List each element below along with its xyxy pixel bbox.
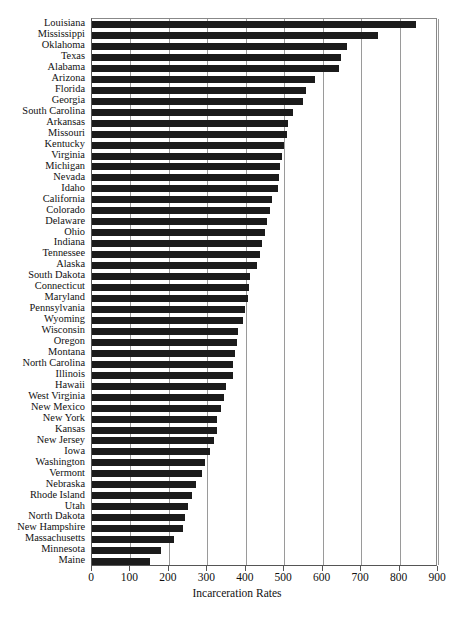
y-label-alabama: Alabama: [0, 61, 85, 72]
bar-texas: [92, 54, 341, 61]
bar-wyoming: [92, 317, 243, 324]
bar-south-carolina: [92, 109, 293, 116]
bar-west-virginia: [92, 394, 224, 401]
y-label-west-virginia: West Virginia: [0, 390, 85, 401]
bar-indiana: [92, 240, 262, 247]
bar-nevada: [92, 174, 279, 181]
bar-series: [92, 19, 436, 565]
y-label-indiana: Indiana: [0, 236, 85, 247]
x-ticklabel-600: 600: [313, 570, 330, 584]
bar-tennessee: [92, 251, 260, 258]
bar-iowa: [92, 448, 210, 455]
x-ticklabel-700: 700: [351, 570, 368, 584]
bar-kansas: [92, 427, 217, 434]
bar-oregon: [92, 339, 237, 346]
y-label-texas: Texas: [0, 50, 85, 61]
bar-florida: [92, 87, 306, 94]
bar-louisiana: [92, 21, 416, 28]
x-ticklabel-100: 100: [121, 570, 138, 584]
y-label-north-dakota: North Dakota: [0, 510, 85, 521]
y-label-south-carolina: South Carolina: [0, 105, 85, 116]
plot-area: [91, 18, 437, 566]
bar-michigan: [92, 163, 280, 170]
bar-kentucky: [92, 142, 284, 149]
bar-washington: [92, 459, 205, 466]
bar-wisconsin: [92, 328, 238, 335]
bar-north-dakota: [92, 514, 185, 521]
bar-vermont: [92, 470, 202, 477]
bar-massachusetts: [92, 536, 174, 543]
y-label-north-carolina: North Carolina: [0, 357, 85, 368]
y-label-vermont: Vermont: [0, 467, 85, 478]
y-label-utah: Utah: [0, 500, 85, 511]
y-label-arkansas: Arkansas: [0, 116, 85, 127]
y-label-maine: Maine: [0, 554, 85, 565]
bar-alaska: [92, 262, 257, 269]
x-ticklabel-0: 0: [88, 570, 94, 584]
y-label-illinois: Illinois: [0, 368, 85, 379]
bar-illinois: [92, 372, 233, 379]
x-axis-tick-labels: 0100200300400500600700800900: [0, 570, 458, 586]
y-label-south-dakota: South Dakota: [0, 269, 85, 280]
y-label-wisconsin: Wisconsin: [0, 324, 85, 335]
bar-south-dakota: [92, 273, 250, 280]
y-label-new-york: New York: [0, 412, 85, 423]
bar-new-jersey: [92, 437, 214, 444]
y-label-connecticut: Connecticut: [0, 280, 85, 291]
bar-rhode-island: [92, 492, 192, 499]
x-axis-title: Incarceration Rates: [0, 587, 458, 599]
bar-idaho: [92, 185, 278, 192]
y-label-nevada: Nevada: [0, 171, 85, 182]
y-label-nebraska: Nebraska: [0, 478, 85, 489]
bar-hawaii: [92, 383, 226, 390]
x-ticklabel-500: 500: [275, 570, 292, 584]
bar-mississippi: [92, 32, 378, 39]
y-label-virginia: Virginia: [0, 149, 85, 160]
bar-nebraska: [92, 481, 196, 488]
y-label-delaware: Delaware: [0, 215, 85, 226]
x-axis-title-text: Incarceration Rates: [192, 587, 281, 599]
incarceration-rates-bar-chart: LouisianaMississippiOklahomaTexasAlabama…: [0, 0, 458, 618]
y-label-ohio: Ohio: [0, 226, 85, 237]
y-label-massachusetts: Massachusetts: [0, 532, 85, 543]
y-label-iowa: Iowa: [0, 445, 85, 456]
y-label-missouri: Missouri: [0, 127, 85, 138]
bar-new-mexico: [92, 405, 221, 412]
y-label-pennsylvania: Pennsylvania: [0, 302, 85, 313]
x-ticklabel-800: 800: [390, 570, 407, 584]
bar-pennsylvania: [92, 306, 245, 313]
bar-missouri: [92, 131, 287, 138]
x-ticklabel-400: 400: [236, 570, 253, 584]
gridline-900: [438, 19, 439, 565]
bar-new-hampshire: [92, 525, 183, 532]
y-label-new-jersey: New Jersey: [0, 434, 85, 445]
bar-connecticut: [92, 284, 249, 291]
y-label-alaska: Alaska: [0, 258, 85, 269]
bar-new-york: [92, 416, 217, 423]
y-label-washington: Washington: [0, 456, 85, 467]
y-label-louisiana: Louisiana: [0, 17, 85, 28]
y-label-colorado: Colorado: [0, 204, 85, 215]
bar-georgia: [92, 98, 303, 105]
bar-virginia: [92, 153, 282, 160]
bar-oklahoma: [92, 43, 347, 50]
x-ticklabel-200: 200: [159, 570, 176, 584]
y-label-oklahoma: Oklahoma: [0, 39, 85, 50]
bar-utah: [92, 503, 188, 510]
bar-ohio: [92, 229, 265, 236]
y-label-georgia: Georgia: [0, 94, 85, 105]
bar-arkansas: [92, 120, 288, 127]
y-label-arizona: Arizona: [0, 72, 85, 83]
bar-maryland: [92, 295, 248, 302]
y-label-maryland: Maryland: [0, 291, 85, 302]
bar-california: [92, 196, 272, 203]
y-label-hawaii: Hawaii: [0, 379, 85, 390]
bar-alabama: [92, 65, 339, 72]
bar-montana: [92, 350, 235, 357]
y-label-idaho: Idaho: [0, 182, 85, 193]
bar-minnesota: [92, 547, 161, 554]
y-label-florida: Florida: [0, 83, 85, 94]
y-label-rhode-island: Rhode Island: [0, 489, 85, 500]
x-ticklabel-300: 300: [198, 570, 215, 584]
bar-arizona: [92, 76, 315, 83]
